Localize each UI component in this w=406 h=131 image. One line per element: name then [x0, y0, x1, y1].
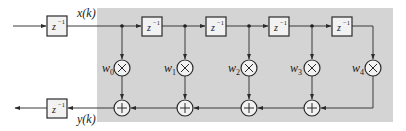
delay-block-3: z −1 — [269, 17, 289, 36]
adder-2 — [241, 100, 257, 116]
weight-label-4: w — [352, 61, 360, 75]
output-delay-label: z — [51, 104, 56, 115]
output-delay-block: z −1 — [47, 99, 67, 118]
delay-exp: −1 — [217, 19, 224, 26]
weight-sub-3: 3 — [298, 68, 302, 77]
delay-label: z — [210, 22, 215, 33]
input-delay-label: z — [51, 21, 56, 32]
weight-sub-0: 0 — [110, 68, 114, 77]
delay-label: z — [336, 22, 341, 33]
delay-label: z — [273, 22, 278, 33]
adder-3 — [304, 100, 320, 116]
input-delay-exp: −1 — [58, 18, 65, 25]
delay-exp: −1 — [280, 19, 287, 26]
input-signal-label: x(k) — [76, 6, 96, 20]
delay-block-4: z −1 — [332, 17, 352, 36]
weight-label-3: w — [290, 61, 298, 75]
output-signal-label: y(k) — [76, 112, 96, 126]
adder-1 — [177, 100, 193, 116]
weight-sub-4: 4 — [360, 68, 364, 77]
delay-block-1: z −1 — [142, 17, 162, 36]
delay-block-2: z −1 — [206, 17, 226, 36]
weight-label-2: w — [228, 61, 236, 75]
delay-exp: −1 — [343, 19, 350, 26]
output-delay-exp: −1 — [58, 101, 65, 108]
input-delay-block: z −1 — [47, 16, 67, 36]
delay-label: z — [146, 22, 151, 33]
delay-exp: −1 — [153, 19, 160, 26]
weight-label-0: w — [102, 61, 110, 75]
adder-0 — [114, 100, 130, 116]
fir-filter-diagram: z −1 x(k) z −1 z −1 z −1 z −1 — [0, 0, 406, 131]
weight-sub-2: 2 — [236, 68, 240, 77]
weight-sub-1: 1 — [172, 68, 176, 77]
weight-label-1: w — [164, 61, 172, 75]
